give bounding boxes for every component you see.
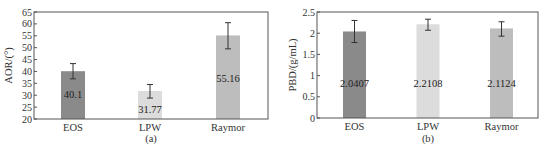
y-tick-label: 2 bbox=[310, 28, 315, 39]
y-tick-label: 60 bbox=[22, 18, 32, 29]
y-axis-label: AOR/(°) bbox=[3, 47, 15, 84]
subfigure-label: (a) bbox=[145, 133, 157, 145]
x-tick-label: Raymor bbox=[485, 121, 519, 132]
bar-lpw bbox=[417, 24, 440, 118]
x-tick-label: LPW bbox=[139, 122, 161, 133]
y-tick-label: 45 bbox=[22, 54, 32, 65]
y-tick-label: 50 bbox=[22, 42, 32, 53]
y-tick-label: 35 bbox=[22, 78, 32, 89]
data-label: 31.77 bbox=[138, 104, 162, 115]
y-tick-label: 0.5 bbox=[303, 91, 316, 102]
y-tick-label: 0 bbox=[310, 113, 315, 124]
data-label: 2.2108 bbox=[414, 78, 443, 89]
chart-a: 40.131.7755.1620253035404550556065EOSLPW… bbox=[3, 7, 268, 146]
bar-eos bbox=[343, 31, 366, 118]
y-tick-label: 25 bbox=[22, 102, 32, 113]
bar-raymor bbox=[490, 28, 513, 118]
y-tick-label: 1.5 bbox=[303, 49, 316, 60]
subfigure-label: (b) bbox=[422, 133, 435, 145]
x-tick-label: LPW bbox=[417, 121, 439, 132]
chart-b: 2.04072.21082.112400.511.522.5EOSLPWRaym… bbox=[287, 7, 538, 146]
data-label: 40.1 bbox=[64, 89, 82, 100]
figure: 40.131.7755.1620253035404550556065EOSLPW… bbox=[0, 0, 548, 154]
y-tick-label: 1 bbox=[310, 70, 315, 81]
data-label: 2.1124 bbox=[487, 78, 516, 89]
x-tick-label: EOS bbox=[63, 122, 83, 133]
y-tick-label: 20 bbox=[22, 114, 32, 125]
x-tick-label: Raymor bbox=[211, 122, 245, 133]
x-tick-label: EOS bbox=[345, 121, 365, 132]
data-label: 2.0407 bbox=[340, 78, 369, 89]
y-tick-label: 2.5 bbox=[303, 7, 316, 18]
y-tick-label: 55 bbox=[22, 30, 32, 41]
y-tick-label: 65 bbox=[22, 7, 32, 18]
y-tick-label: 30 bbox=[22, 90, 32, 101]
y-tick-label: 40 bbox=[22, 66, 32, 77]
data-label: 55.16 bbox=[216, 73, 240, 84]
y-axis-label: PBD/(g/mL) bbox=[287, 38, 299, 92]
